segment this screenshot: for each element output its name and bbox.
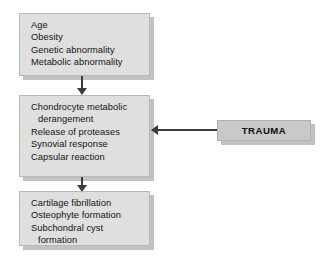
node-line: Metabolic abnormality <box>31 56 143 68</box>
node-line: Osteophyte formation <box>31 209 143 221</box>
arrow-head-left-icon <box>151 125 158 135</box>
flowchart-node-risk-factors[interactable]: Age Obesity Genetic abnormality Metaboli… <box>19 13 150 76</box>
node-line: Subchondral cyst <box>31 222 143 234</box>
flowchart-node-trauma[interactable]: TRAUMA <box>217 120 311 141</box>
node-line: derangement <box>31 113 143 125</box>
node-text-block: Chondrocyte metabolic derangement Releas… <box>20 96 149 167</box>
node-line: Capsular reaction <box>31 151 143 163</box>
flowchart-canvas: Age Obesity Genetic abnormality Metaboli… <box>0 0 324 261</box>
node-line: Release of proteases <box>31 126 143 138</box>
node-trauma-label: TRAUMA <box>242 125 287 136</box>
node-text-block: Cartilage fibrillation Osteophyte format… <box>20 192 149 251</box>
node-line: Synovial response <box>31 138 143 150</box>
arrow-head-down-icon <box>77 88 87 95</box>
node-line: Chondrocyte metabolic <box>31 101 143 113</box>
node-line: Cartilage fibrillation <box>31 197 143 209</box>
node-line: Age <box>31 19 143 31</box>
flowchart-node-cartilage-pathology[interactable]: Chondrocyte metabolic derangement Releas… <box>19 95 150 177</box>
node-line: Obesity <box>31 31 143 43</box>
node-line: formation <box>31 234 143 246</box>
node-line: Genetic abnormality <box>31 44 143 56</box>
flowchart-node-structural-changes[interactable]: Cartilage fibrillation Osteophyte format… <box>19 191 150 246</box>
node-text-block: Age Obesity Genetic abnormality Metaboli… <box>20 14 149 73</box>
arrow-shaft <box>158 129 217 131</box>
